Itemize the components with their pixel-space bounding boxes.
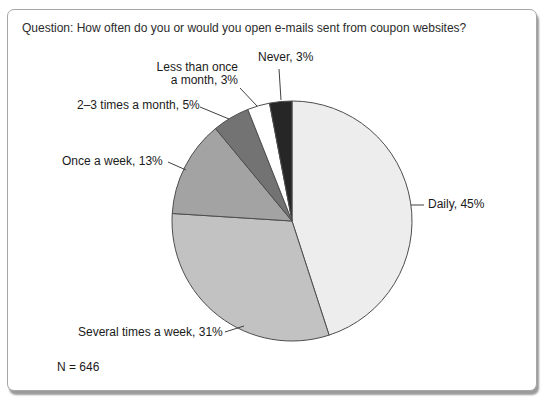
figure-screenshot: Question: How often do you or would you …	[0, 0, 546, 406]
slice-label-less-than-once-a-month: Less than once a month, 3%	[140, 61, 238, 87]
slice-label-two-three-times-a-month: 2–3 times a month, 5%	[77, 99, 200, 112]
chart-question-title: Question: How often do you or would you …	[22, 21, 512, 35]
slice-label-never: Never, 3%	[258, 51, 313, 64]
slice-label-once-a-week: Once a week, 13%	[62, 155, 163, 168]
slice-label-daily: Daily, 45%	[428, 198, 484, 211]
slice-label-several-times-a-week: Several times a week, 31%	[78, 326, 223, 339]
sample-size-note: N = 646	[57, 361, 99, 374]
